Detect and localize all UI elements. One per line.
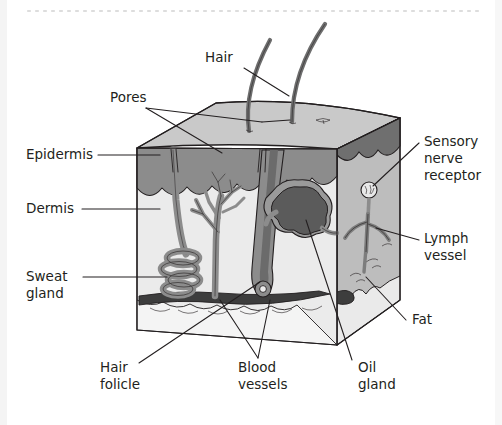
label-pores: Pores xyxy=(110,89,147,105)
label-dermis: Dermis xyxy=(26,200,74,216)
label-oil-gland-line2: gland xyxy=(358,376,396,392)
right-page-edge xyxy=(495,0,502,425)
skin-cross-section-illustration: Hair Pores Epidermis Dermis Sweat gland … xyxy=(0,0,502,425)
label-fat: Fat xyxy=(412,311,432,327)
label-lymph-vessel-line1: Lymph xyxy=(424,230,469,246)
skin-diagram-figure: Hair Pores Epidermis Dermis Sweat gland … xyxy=(0,0,502,425)
label-sensory-nerve-receptor-line1: Sensory xyxy=(424,133,478,149)
label-hair-folicle-line1: Hair xyxy=(100,359,128,375)
label-hair-folicle-line2: folicle xyxy=(100,376,140,392)
label-sensory-nerve-receptor-line3: receptor xyxy=(424,167,481,183)
label-sensory-nerve-receptor-line2: nerve xyxy=(424,150,463,166)
label-blood-vessels-line2: vessels xyxy=(238,376,287,392)
label-sweat-gland-line2: gland xyxy=(26,285,64,301)
label-epidermis: Epidermis xyxy=(26,146,93,162)
label-blood-vessels-line1: Blood xyxy=(238,359,276,375)
skin-front-face xyxy=(137,148,337,345)
label-sweat-gland-line1: Sweat xyxy=(26,268,67,284)
label-hair: Hair xyxy=(205,49,233,65)
left-page-edge xyxy=(0,0,7,425)
label-oil-gland-line1: Oil xyxy=(358,359,376,375)
label-lymph-vessel-line2: vessel xyxy=(424,247,466,263)
